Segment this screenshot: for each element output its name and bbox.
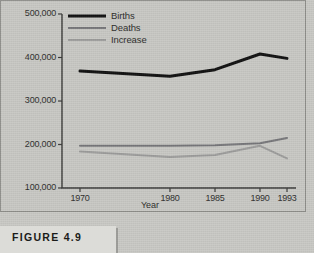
legend-label-births: Births	[111, 10, 135, 21]
chart-series-line-births	[80, 54, 287, 76]
figure-caption-label: FIGURE 4.9	[12, 231, 82, 243]
legend-label-increase: Increase	[111, 34, 147, 45]
x-axis-tick-label: 1993	[267, 193, 307, 203]
y-axis-tick-label: 400,000	[10, 52, 56, 62]
x-axis-title: Year	[120, 200, 180, 210]
chart-series-line-increase	[80, 146, 287, 159]
legend-label-deaths: Deaths	[111, 22, 141, 33]
x-axis-tick-label: 1985	[195, 193, 235, 203]
figure-container: 500,000 400,000 300,000 200,000 100,000 …	[0, 0, 314, 253]
y-axis-tick-label: 300,000	[10, 95, 56, 105]
y-axis-tick-label: 200,000	[10, 139, 56, 149]
chart-svg	[0, 0, 306, 212]
chart-plot-area	[0, 0, 306, 212]
y-axis-tick-label: 100,000	[10, 182, 56, 192]
chart-series-line-deaths	[80, 138, 287, 146]
x-axis-tick-label: 1970	[60, 193, 100, 203]
y-axis-tick-label: 500,000	[10, 8, 56, 18]
